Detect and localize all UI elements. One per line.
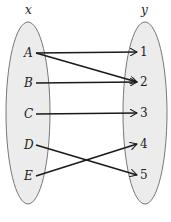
- mapping-arrow: [36, 53, 137, 82]
- codomain-element: 4: [140, 137, 148, 151]
- domain-label: x: [25, 3, 32, 17]
- codomain-element: 5: [140, 168, 148, 182]
- mapping-diagram: x y ABCDE 12345: [0, 0, 171, 222]
- domain-element: B: [23, 76, 33, 90]
- codomain-label: y: [140, 3, 148, 17]
- mapping-arrow: [36, 82, 137, 83]
- domain-element: A: [23, 46, 33, 60]
- domain-element: C: [24, 107, 33, 121]
- codomain-element: 3: [140, 106, 148, 120]
- codomain-element: 1: [140, 45, 148, 59]
- domain-element: E: [23, 169, 33, 183]
- mapping-arrow: [36, 52, 137, 53]
- domain-element: D: [23, 138, 34, 152]
- mapping-arrows: [36, 52, 137, 176]
- codomain-element: 2: [140, 75, 148, 89]
- mapping-arrow: [36, 113, 137, 114]
